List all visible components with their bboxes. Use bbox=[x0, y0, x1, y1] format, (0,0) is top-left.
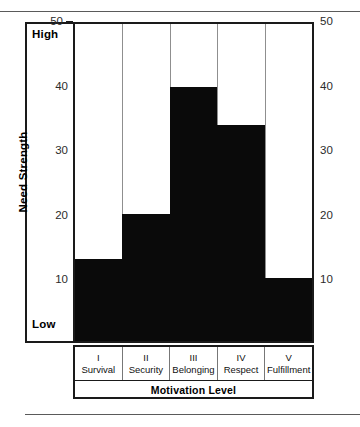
category-row: ISurvivalIISecurityIIIBelongingIVRespect… bbox=[75, 347, 312, 380]
category-name: Fulfillment bbox=[267, 364, 310, 375]
category-cell-respect: IVRespect bbox=[218, 347, 266, 380]
y-tick-label-right-50: 50 bbox=[320, 15, 344, 27]
y-tick-label-left-40: 40 bbox=[46, 80, 68, 92]
y-tick-label-right-30: 30 bbox=[320, 144, 344, 156]
y-tick-label-left-50: 50 bbox=[41, 15, 63, 27]
bar-iii bbox=[170, 87, 217, 341]
y-axis-low-label: Low bbox=[32, 318, 56, 330]
category-cell-security: IISecurity bbox=[123, 347, 171, 380]
y-tick-label-left-20: 20 bbox=[46, 209, 68, 221]
category-name: Belonging bbox=[172, 364, 214, 375]
y-tick-label-right-40: 40 bbox=[320, 80, 344, 92]
y-axis-title: Need Strength bbox=[17, 127, 29, 217]
y-tick-left-50 bbox=[66, 21, 73, 23]
bar-i bbox=[75, 259, 122, 341]
category-numeral: III bbox=[190, 352, 198, 363]
top-divider-rule bbox=[0, 11, 360, 12]
plot-inner bbox=[75, 24, 312, 341]
bracket-cap-top bbox=[25, 22, 41, 24]
plot-area bbox=[73, 22, 314, 343]
bottom-divider-rule bbox=[25, 414, 360, 415]
y-tick-label-right-20: 20 bbox=[320, 209, 344, 221]
bar-ii bbox=[122, 214, 170, 341]
y-tick-label-left-10: 10 bbox=[46, 273, 68, 285]
category-cell-survival: ISurvival bbox=[75, 347, 123, 380]
chart-figure: High Low Need Strength 50 40 30 20 10 50… bbox=[0, 0, 360, 427]
bar-iv bbox=[217, 125, 265, 341]
category-name: Respect bbox=[224, 364, 259, 375]
category-name: Security bbox=[129, 364, 163, 375]
y-tick-label-left-30: 30 bbox=[46, 144, 68, 156]
category-cell-fulfillment: VFulfillment bbox=[265, 347, 312, 380]
y-axis-high-label: High bbox=[32, 28, 58, 40]
category-name: Survival bbox=[81, 364, 115, 375]
category-numeral: I bbox=[97, 352, 100, 363]
bar-v bbox=[265, 278, 312, 341]
category-numeral: V bbox=[286, 352, 292, 363]
category-numeral: II bbox=[143, 352, 148, 363]
x-axis-title: Motivation Level bbox=[151, 384, 236, 396]
bracket-cap-bottom bbox=[25, 341, 41, 343]
category-cell-belonging: IIIBelonging bbox=[170, 347, 218, 380]
x-axis-title-cell: Motivation Level bbox=[75, 380, 312, 399]
y-tick-label-right-10: 10 bbox=[320, 273, 344, 285]
category-numeral: IV bbox=[237, 352, 246, 363]
y-axis-label-frame bbox=[25, 22, 74, 343]
category-table: ISurvivalIISecurityIIIBelongingIVRespect… bbox=[73, 345, 314, 399]
